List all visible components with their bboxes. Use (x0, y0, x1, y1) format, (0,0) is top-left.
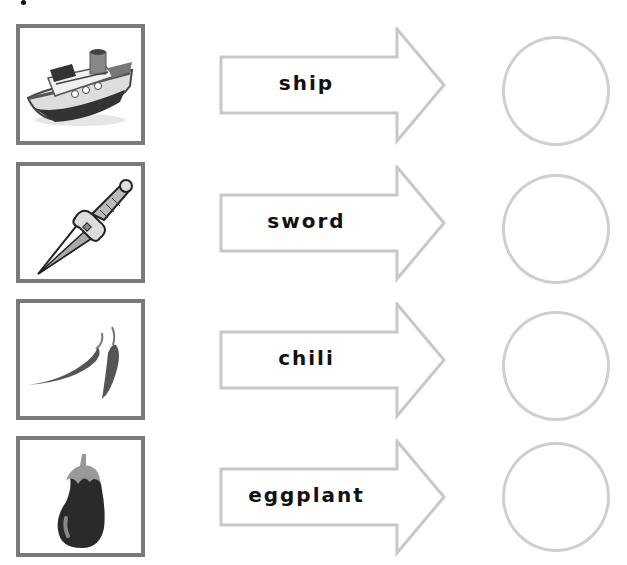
chili-icon (20, 303, 141, 416)
sword-arrow: sword (219, 165, 449, 283)
worksheet-row-chili: chili (0, 297, 627, 427)
eggplant-picture-frame (16, 436, 145, 557)
word-label: ship (219, 71, 394, 95)
word-label: eggplant (219, 483, 394, 507)
sword-picture-frame (16, 162, 145, 283)
worksheet-row-sword: sword (0, 160, 627, 290)
sword-icon (20, 166, 141, 279)
chili-picture-frame (16, 299, 145, 420)
ship-picture-frame (16, 24, 145, 145)
worksheet-row-ship: ship (0, 22, 627, 152)
answer-circle-eggplant[interactable] (502, 442, 610, 552)
eggplant-arrow: eggplant (219, 439, 449, 557)
worksheet-row-eggplant: eggplant (0, 434, 627, 564)
ship-icon (20, 28, 141, 141)
word-label: sword (219, 209, 394, 233)
bullet-mark (21, 0, 26, 5)
word-label: chili (219, 346, 394, 370)
answer-circle-sword[interactable] (502, 174, 610, 284)
ship-arrow: ship (219, 27, 449, 145)
answer-circle-ship[interactable] (502, 36, 610, 146)
chili-arrow: chili (219, 302, 449, 420)
eggplant-icon (20, 440, 141, 553)
answer-circle-chili[interactable] (502, 311, 610, 421)
